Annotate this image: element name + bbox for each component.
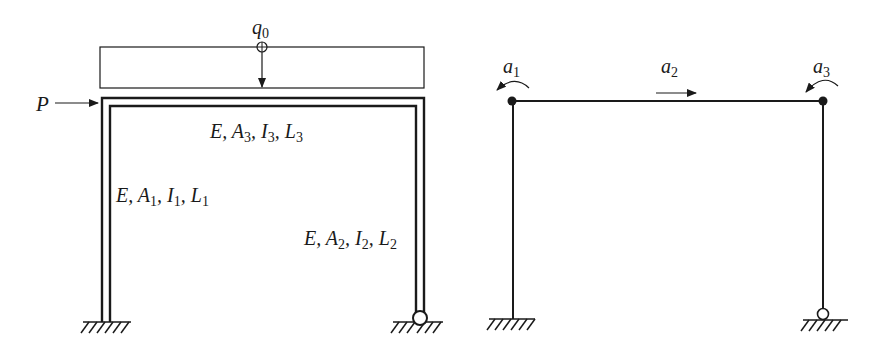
rotation-arrow-a3-icon — [806, 80, 838, 92]
fixed-support-icon — [81, 322, 131, 333]
pin-support-icon — [391, 311, 443, 333]
load-resultant-icon — [257, 42, 267, 87]
right-column-properties: E, A2, I2, L2 — [303, 227, 397, 252]
dof-label-a1: a1 — [503, 55, 520, 80]
left-frame-figure: q0 P E, A3, I3, L3 E, A1, I1, L1 E, A2, … — [35, 16, 443, 333]
frame-single-line — [513, 101, 823, 319]
beam-properties: E, A3, I3, L3 — [209, 120, 303, 145]
dof-label-a3: a3 — [813, 55, 830, 80]
right-frame-figure: a1 a2 a3 — [487, 55, 848, 331]
left-column-properties: E, A1, I1, L1 — [115, 184, 209, 209]
load-label: q0 — [252, 16, 269, 41]
node-left — [508, 97, 517, 106]
node-right — [819, 97, 828, 106]
frame-diagram: q0 P E, A3, I3, L3 E, A1, I1, L1 E, A2, … — [0, 0, 891, 346]
dof-label-a2: a2 — [661, 55, 678, 80]
pin-support-icon — [801, 309, 848, 332]
force-label: P — [35, 92, 49, 116]
fixed-support-icon — [487, 319, 535, 330]
rotation-arrow-a1-icon — [497, 81, 529, 90]
